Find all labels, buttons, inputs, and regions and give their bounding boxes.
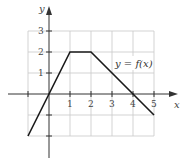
x-tick-label-1: 1 [67, 99, 73, 109]
x-tick-label-3: 3 [109, 99, 115, 109]
y-tick-label-3: 3 [38, 26, 44, 36]
y-tick-label-2: 2 [38, 47, 44, 57]
x-tick-label-4: 4 [130, 99, 136, 109]
y-tick-label-1: 1 [38, 68, 44, 78]
function-graph: 1 2 3 4 5 3 2 1 x y y = f(x) [0, 0, 190, 163]
y-axis-arrow-icon [46, 6, 52, 15]
grid [28, 31, 154, 136]
x-tick-label-5: 5 [151, 99, 157, 109]
y-axis-label: y [38, 3, 45, 14]
x-tick-label-2: 2 [88, 99, 94, 109]
curve-label: y = f(x) [114, 58, 153, 69]
x-axis-arrow-icon [169, 91, 178, 97]
x-axis-label: x [174, 99, 180, 110]
